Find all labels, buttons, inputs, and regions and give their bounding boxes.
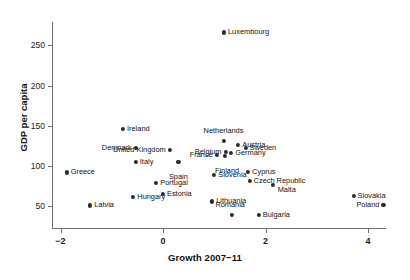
data-point-label: Malta bbox=[278, 187, 296, 194]
data-point bbox=[154, 181, 158, 185]
data-point-label: Slovenia bbox=[218, 171, 246, 178]
x-axis-title: Growth 2007−11 bbox=[0, 252, 410, 263]
data-point-label: Estonia bbox=[167, 190, 192, 197]
y-tick-mark bbox=[48, 166, 52, 167]
x-tick-mark bbox=[266, 229, 267, 233]
data-point bbox=[352, 194, 356, 198]
data-point bbox=[88, 203, 92, 207]
data-point bbox=[230, 213, 234, 217]
data-point bbox=[223, 153, 227, 157]
y-axis-line bbox=[52, 22, 53, 228]
data-point-label: Poland bbox=[356, 201, 379, 208]
data-point bbox=[176, 160, 180, 164]
y-tick-mark bbox=[48, 86, 52, 87]
x-tick-mark bbox=[61, 229, 62, 233]
data-point-label: France bbox=[190, 151, 213, 158]
data-point-label: Germany bbox=[235, 149, 265, 156]
data-point bbox=[271, 183, 275, 187]
y-tick-mark bbox=[48, 206, 52, 207]
data-point-label: Netherlands bbox=[204, 127, 244, 134]
data-point-label: Bulgaria bbox=[263, 211, 290, 218]
data-point-label: Czech Republic bbox=[254, 178, 306, 185]
data-point bbox=[210, 199, 214, 203]
data-point bbox=[222, 30, 226, 34]
data-point-label: Ireland bbox=[127, 125, 150, 132]
data-point-label: United Kingdom bbox=[113, 146, 166, 153]
y-tick-mark bbox=[48, 126, 52, 127]
data-point bbox=[221, 139, 225, 143]
scatter-plot-figure: 50100150200250−2024 LuxembourgIrelandNet… bbox=[0, 0, 410, 280]
data-point bbox=[212, 173, 216, 177]
data-point bbox=[65, 170, 69, 174]
data-point bbox=[257, 213, 261, 217]
data-point-label: Slovakia bbox=[358, 192, 386, 199]
data-point-label: Romania bbox=[215, 201, 245, 208]
x-axis-line bbox=[52, 228, 386, 229]
data-point bbox=[248, 179, 252, 183]
data-point bbox=[381, 203, 385, 207]
y-tick-label: 50 bbox=[19, 201, 45, 211]
x-tick-label: 4 bbox=[353, 236, 383, 246]
data-point bbox=[229, 151, 233, 155]
data-point-label: Hungary bbox=[137, 193, 165, 200]
data-point bbox=[121, 127, 125, 131]
data-point bbox=[236, 143, 240, 147]
data-point bbox=[131, 195, 135, 199]
data-point-label: Italy bbox=[140, 158, 154, 165]
data-point bbox=[168, 148, 172, 152]
data-point-label: Luxembourg bbox=[228, 29, 269, 36]
data-point-label: Portugal bbox=[160, 179, 188, 186]
data-point-label: Latvia bbox=[94, 202, 114, 209]
data-point-label: Cyprus bbox=[252, 168, 275, 175]
x-tick-label: 2 bbox=[251, 236, 281, 246]
data-point bbox=[215, 153, 219, 157]
y-tick-mark bbox=[48, 45, 52, 46]
data-point-label: Greece bbox=[71, 169, 95, 176]
x-tick-label: 0 bbox=[148, 236, 178, 246]
x-tick-mark bbox=[163, 229, 164, 233]
x-tick-label: −2 bbox=[46, 236, 76, 246]
y-axis-title: GDP per capita bbox=[18, 53, 29, 183]
data-point bbox=[134, 160, 138, 164]
y-tick-label: 250 bbox=[19, 40, 45, 50]
x-tick-mark bbox=[368, 229, 369, 233]
